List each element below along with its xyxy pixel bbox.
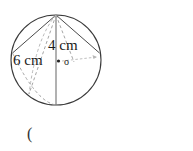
center-point-dot [57,59,60,62]
caption: ( [27,126,32,142]
slant-height-label: 4 cm [48,38,78,53]
radius-arrowhead-icon [93,55,98,59]
figure-page: 4 cm 6 cm o ( [0,0,193,151]
center-marker-label: o [64,57,69,67]
diameter-label: 6 cm [13,53,43,68]
